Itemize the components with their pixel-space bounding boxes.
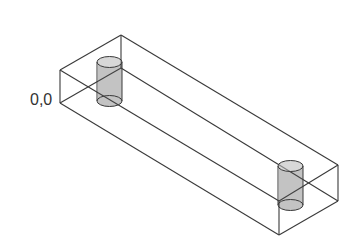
- origin-label: 0,0: [30, 92, 52, 108]
- box-wireframe: [0, 0, 356, 250]
- right-cylinder: [278, 160, 303, 212]
- diagram-canvas: 0,0: [0, 0, 356, 250]
